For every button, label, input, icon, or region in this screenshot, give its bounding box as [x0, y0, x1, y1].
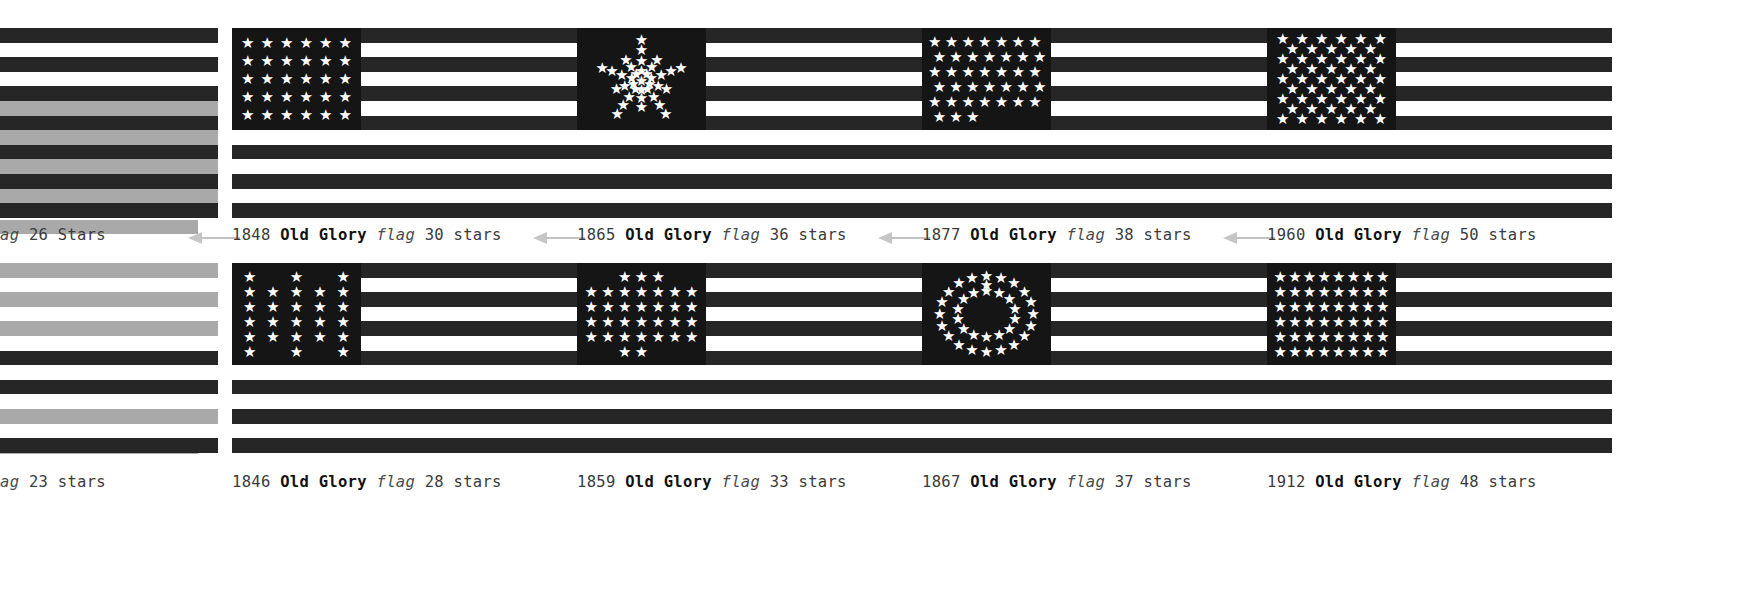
flag-canton: ★★★★★★★★★★★★★★★★★★★★★★★★★★★★★★★★★★★★★★ [922, 28, 1051, 130]
star-icon: ★ [243, 344, 256, 359]
caption-stars-word: stars [1144, 226, 1192, 244]
flag-stripe [577, 394, 922, 409]
flag-stripe [577, 130, 922, 145]
star-icon: ★ [319, 90, 332, 105]
star-icon: ★ [1276, 112, 1289, 127]
caption-stars-word: stars [454, 226, 502, 244]
caption-flag-name: Old Glory [625, 473, 712, 491]
flag-stripe [577, 438, 922, 453]
star-icon: ★ [618, 344, 631, 359]
star-icon: ★ [980, 344, 993, 359]
flag-stripe [577, 409, 922, 424]
flag-cell-flag-28-stars[interactable]: ★★★★★★★★★★★★★★★★★★★★★★★★★★1846 Old Glory… [232, 255, 577, 495]
caption-star-count: 28 [425, 473, 444, 491]
caption-star-count: 26 [29, 226, 48, 244]
flag-stripe [232, 438, 577, 453]
flag-stripe [232, 409, 577, 424]
flag-row-bottom: ag 23 stars★★★★★★★★★★★★★★★★★★★★★★★★★★184… [0, 255, 1753, 495]
star-icon: ★ [610, 106, 623, 121]
flag-cell-flag-37-stars[interactable]: ★★★★★★★★★★★★★★★★★★★★★★★★★★★★★★★★★★★1867 … [922, 255, 1267, 495]
star-icon: ★ [1332, 344, 1345, 359]
star-icon: ★ [949, 109, 962, 124]
star-icon: ★ [1012, 94, 1025, 109]
flag-stripe [1267, 189, 1612, 204]
flag-stripe [0, 394, 218, 409]
star-icon: ★ [313, 329, 326, 344]
flag-cell-flag-36-stars[interactable]: ★★★★★★★★★★★★★★★★★★★★★★★★★★★★★★★★★★★★1865… [577, 20, 922, 260]
caption-year: 1912 [1267, 473, 1306, 491]
caption-flag-word: flag [1067, 226, 1106, 244]
star-icon: ★ [660, 81, 673, 96]
flag-stripes [0, 28, 218, 218]
flag-stripe [232, 424, 577, 439]
star-icon: ★ [980, 330, 993, 345]
flag-stripe [0, 174, 218, 189]
star-icon: ★ [339, 54, 352, 69]
star-icon: ★ [1335, 112, 1348, 127]
flag-stripe [0, 189, 218, 204]
star-icon: ★ [261, 90, 274, 105]
flag-stripe [577, 365, 922, 380]
star-icon: ★ [241, 72, 254, 87]
flag-image-flag-28-stars: ★★★★★★★★★★★★★★★★★★★★★★★★★★ [232, 263, 577, 453]
star-icon: ★ [685, 329, 698, 344]
flag-cell-flag-38-stars[interactable]: ★★★★★★★★★★★★★★★★★★★★★★★★★★★★★★★★★★★★★★18… [922, 20, 1267, 260]
flag-stripe [922, 424, 1267, 439]
caption-flag-word: flag [722, 473, 761, 491]
flag-cell-flag-30-stars[interactable]: ★★★★★★★★★★★★★★★★★★★★★★★★★★★★★★1848 Old G… [232, 20, 577, 260]
star-icon: ★ [280, 90, 293, 105]
star-icon: ★ [1374, 112, 1387, 127]
star-icon: ★ [1347, 344, 1360, 359]
flag-cell-flag-33-stars[interactable]: ★★★★★★★★★★★★★★★★★★★★★★★★★★★★★★★★★1859 Ol… [577, 255, 922, 495]
flag-cell-flag-50-stars[interactable]: ★★★★★★★★★★★★★★★★★★★★★★★★★★★★★★★★★★★★★★★★… [1267, 20, 1612, 260]
star-icon: ★ [1315, 112, 1328, 127]
flag-stripe [922, 409, 1267, 424]
caption-flag-name: Old Glory [1315, 226, 1402, 244]
star-icon: ★ [635, 344, 648, 359]
star-icon: ★ [280, 54, 293, 69]
flag-stripe [0, 28, 218, 43]
caption-flag-name: Old Glory [1315, 473, 1402, 491]
star-icon: ★ [300, 72, 313, 87]
flag-image-flag-33-stars: ★★★★★★★★★★★★★★★★★★★★★★★★★★★★★★★★★ [577, 263, 922, 453]
flag-stripe [232, 189, 577, 204]
flag-stripe [0, 278, 218, 293]
star-icon: ★ [261, 108, 274, 123]
flag-stripe [922, 394, 1267, 409]
flag-image-flag-48-stars: ★★★★★★★★★★★★★★★★★★★★★★★★★★★★★★★★★★★★★★★★… [1267, 263, 1612, 453]
caption-flag-name: Old Glory [280, 226, 367, 244]
star-icon: ★ [261, 36, 274, 51]
flag-stripe [0, 409, 218, 424]
flag-stripe [1267, 203, 1612, 218]
flag-image-flag-26-stars [0, 28, 218, 218]
flag-cell-flag-48-stars[interactable]: ★★★★★★★★★★★★★★★★★★★★★★★★★★★★★★★★★★★★★★★★… [1267, 255, 1612, 495]
star-icon: ★ [1354, 112, 1367, 127]
star-icon: ★ [337, 344, 350, 359]
flag-caption-flag-48-stars: 1912 Old Glory flag 48 stars [1267, 473, 1537, 491]
caption-flag-word: flag [377, 473, 416, 491]
flag-stripe [232, 145, 577, 160]
caption-flag-word: flag [1412, 473, 1451, 491]
flag-canton: ★★★★★★★★★★★★★★★★★★★★★★★★★★★★★★★★★★★★★★★★… [1267, 28, 1396, 130]
flag-canton: ★★★★★★★★★★★★★★★★★★★★★★★★★★★★★★★★★★★★ [577, 28, 706, 130]
caption-year: 1848 [232, 226, 271, 244]
star-icon: ★ [280, 108, 293, 123]
flag-stripe [1267, 145, 1612, 160]
flag-stripe [1267, 130, 1612, 145]
caption-star-count: 48 [1460, 473, 1479, 491]
star-icon: ★ [319, 36, 332, 51]
star-icon: ★ [1303, 344, 1316, 359]
flag-stripe [0, 116, 218, 131]
star-icon: ★ [300, 54, 313, 69]
flag-caption-flag-33-stars: 1859 Old Glory flag 33 stars [577, 473, 847, 491]
star-icon: ★ [610, 81, 623, 96]
flag-stripe [0, 145, 218, 160]
caption-star-count: 23 [29, 473, 48, 491]
flag-caption-flag-23-stars: ag 23 stars [0, 473, 106, 491]
star-icon: ★ [965, 342, 978, 357]
flag-stripe [577, 174, 922, 189]
star-icon: ★ [339, 108, 352, 123]
star-icon: ★ [966, 109, 979, 124]
star-icon: ★ [595, 61, 608, 76]
flag-caption-flag-50-stars: 1960 Old Glory flag 50 stars [1267, 226, 1537, 244]
